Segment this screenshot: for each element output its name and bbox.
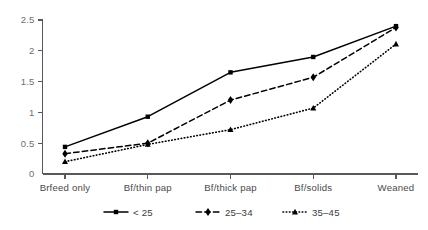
- data-point-square: [63, 145, 67, 149]
- data-point-diamond: [62, 150, 67, 158]
- line-chart: 00.511.522.5 Brfeed onlyBf/thin papBf/th…: [0, 0, 428, 230]
- legend-item-1[interactable]: < 25: [104, 207, 153, 218]
- data-point-square: [228, 70, 232, 74]
- data-point-square: [146, 115, 150, 119]
- legend-label: 35–45: [312, 207, 340, 218]
- data-point-diamond: [205, 208, 210, 216]
- x-tick-label: Weaned: [378, 182, 415, 193]
- y-tick-label: 2.5: [21, 14, 35, 25]
- y-axis: 00.511.522.5: [21, 14, 43, 179]
- y-tick-label: 0: [29, 168, 34, 179]
- legend-label: < 25: [133, 207, 153, 218]
- data-point-square: [114, 210, 118, 214]
- chart-legend: < 2525–3435–45: [104, 207, 340, 218]
- series-line-dashed: [65, 27, 396, 153]
- x-axis: Brfeed onlyBf/thin papBf/thick papBf/sol…: [40, 174, 418, 193]
- data-point-diamond: [228, 96, 233, 104]
- legend-item-2[interactable]: 25–34: [196, 207, 253, 218]
- data-point-square: [311, 55, 315, 59]
- y-tick-label: 1.5: [21, 76, 35, 87]
- chart-canvas: 00.511.522.5 Brfeed onlyBf/thin papBf/th…: [0, 0, 428, 230]
- data-point-diamond: [311, 73, 316, 81]
- data-point-triangle: [310, 105, 316, 111]
- y-tick-label: 1: [29, 107, 34, 118]
- x-tick-label: Brfeed only: [40, 182, 91, 193]
- y-tick-label: 2: [29, 45, 34, 56]
- x-tick-label: Bf/solids: [294, 182, 332, 193]
- x-tick-label: Bf/thin pap: [124, 182, 172, 193]
- legend-item-3[interactable]: 35–45: [283, 207, 340, 218]
- legend-label: 25–34: [225, 207, 253, 218]
- x-tick-label: Bf/thick pap: [204, 182, 257, 193]
- y-tick-label: 0.5: [21, 138, 35, 149]
- series-layer: [62, 23, 399, 164]
- data-point-triangle: [62, 158, 68, 164]
- data-point-triangle: [393, 41, 399, 47]
